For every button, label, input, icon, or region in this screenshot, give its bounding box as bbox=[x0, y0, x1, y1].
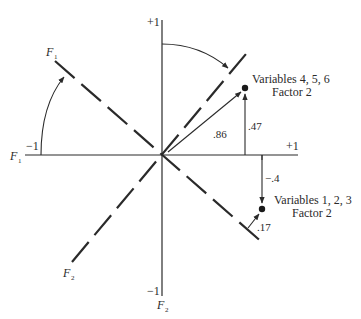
point1-original-value: .47 bbox=[248, 120, 262, 132]
data-point-variables-4-5-6 bbox=[242, 85, 248, 91]
point1-rotated-value: .86 bbox=[213, 128, 227, 140]
rotation-arc-left bbox=[41, 77, 64, 155]
rotated-f1-sub: 1 bbox=[54, 53, 58, 61]
vertical-bottom-label: −1 bbox=[147, 284, 160, 298]
horizontal-right-label: +1 bbox=[286, 139, 299, 153]
rotated-f1-name: F bbox=[45, 45, 54, 59]
horizontal-axis-sub: 1 bbox=[18, 157, 22, 165]
point1-label-line1: Variables 4, 5, 6 bbox=[252, 72, 330, 86]
point1-orig-neg-value: −.4 bbox=[265, 172, 280, 184]
rotation-arc-top bbox=[162, 44, 228, 68]
rotated-f2-sub: 2 bbox=[71, 274, 75, 282]
factor-rotation-diagram: +1 −1 F 2 −1 F 1 +1 F 1 F 2 Variables 4,… bbox=[0, 0, 361, 319]
rotated-axis-f1 bbox=[55, 61, 264, 244]
point1-label-line2: Factor 2 bbox=[272, 85, 312, 99]
vertical-axis-name: F bbox=[156, 298, 165, 312]
rotated-f2-name: F bbox=[62, 266, 71, 280]
point2-label-line2: Factor 2 bbox=[292, 206, 332, 220]
point2-label-line1: Variables 1, 2, 3 bbox=[274, 193, 352, 207]
horizontal-left-label: −1 bbox=[26, 139, 39, 153]
vertical-axis-sub: 2 bbox=[165, 306, 169, 314]
projection-vector-86 bbox=[168, 92, 241, 152]
vertical-top-label: +1 bbox=[147, 15, 160, 29]
data-point-variables-1-2-3 bbox=[259, 206, 265, 212]
horizontal-axis-name: F bbox=[9, 149, 18, 163]
point2-rotated-value: .17 bbox=[257, 221, 271, 233]
